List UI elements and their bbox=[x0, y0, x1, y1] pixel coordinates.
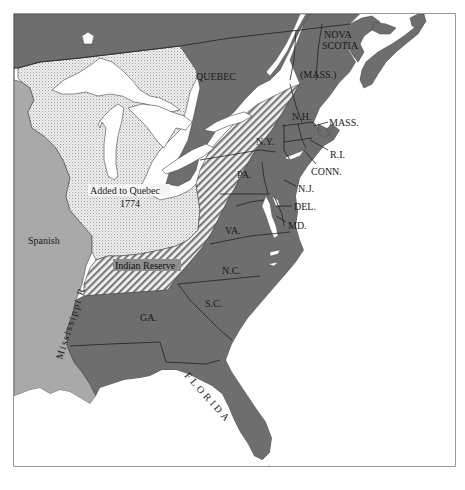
label-nh: N.H. bbox=[292, 111, 311, 122]
label-ga: GA. bbox=[140, 312, 157, 323]
label-spanish: Spanish bbox=[28, 235, 60, 246]
label-nc: N.C. bbox=[222, 265, 241, 276]
colonial-map: QUEBEC NOVA SCOTIA (MASS.) N.H. MASS. R.… bbox=[0, 0, 465, 490]
label-nova-scotia-1: NOVA bbox=[324, 29, 352, 40]
label-conn: CONN. bbox=[311, 166, 342, 177]
label-sc: S.C. bbox=[205, 298, 222, 309]
label-del: DEL. bbox=[294, 201, 316, 212]
label-nova-scotia-2: SCOTIA bbox=[322, 40, 359, 51]
label-mass-maine: (MASS.) bbox=[300, 69, 336, 81]
label-ri: R.I. bbox=[330, 149, 345, 160]
label-ny: N.Y. bbox=[256, 136, 274, 147]
label-pa: PA. bbox=[237, 169, 251, 180]
label-added-year: 1774 bbox=[120, 198, 140, 209]
label-nj: N.J. bbox=[298, 183, 314, 194]
label-indian-reserve: Indian Reserve bbox=[115, 260, 176, 271]
label-md: MD. bbox=[288, 220, 307, 231]
label-quebec: QUEBEC bbox=[196, 71, 236, 82]
label-va: VA. bbox=[225, 225, 241, 236]
label-added-to-quebec: Added to Quebec bbox=[90, 185, 161, 196]
label-mass: MASS. bbox=[329, 117, 359, 128]
